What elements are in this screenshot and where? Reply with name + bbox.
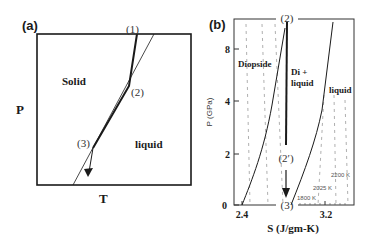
- isotherm-label-1800: 1800 K: [297, 195, 316, 201]
- x-tick-2-4: 2.4: [236, 209, 249, 220]
- panel-b-point-3: (3): [281, 199, 294, 212]
- solidus-curve: [242, 28, 285, 205]
- panel-b-region-diopside: Diopside: [238, 59, 272, 69]
- panel-a: (a) (1) (2) (3) Solid liquid P T: [16, 18, 191, 206]
- panel-b-point-2: (2): [281, 12, 294, 25]
- y-tick-8: 8: [225, 44, 230, 55]
- panel-b-region-liquid: liquid: [329, 85, 352, 95]
- panel-a-point-3: (3): [77, 137, 90, 150]
- panel-b-x-axis-label: S (J/gm-K): [267, 222, 319, 235]
- panel-b: (b): [205, 12, 354, 235]
- x-tick-3-2: 3.2: [320, 209, 333, 220]
- panel-b-region-di-liquid-2: liquid: [291, 78, 314, 88]
- isotherm-label-2200: 2200 K: [331, 172, 350, 178]
- y-tick-4: 4: [225, 96, 230, 107]
- panel-a-label: (a): [22, 18, 38, 33]
- panel-a-y-axis-label: P: [16, 102, 24, 117]
- arrow-down-icon: [84, 168, 93, 177]
- panel-b-y-axis-label: P (GPa): [205, 97, 214, 126]
- figure: (a) (1) (2) (3) Solid liquid P T (b): [0, 0, 370, 240]
- y-tick-0: 0: [222, 200, 227, 211]
- panel-a-region-liquid: liquid: [135, 138, 163, 150]
- isotherm-label-2025: 2025 K: [313, 185, 332, 191]
- panel-b-point-2prime: (2′): [278, 152, 294, 165]
- panel-b-label: (b): [209, 17, 226, 32]
- panel-a-x-axis-label: T: [99, 191, 108, 206]
- panel-a-frame: [37, 34, 191, 185]
- panel-a-thin-line: [73, 34, 154, 185]
- panel-a-region-solid: Solid: [62, 75, 86, 87]
- isentrope-path: [286, 22, 287, 145]
- panel-a-point-1: (1): [126, 23, 139, 36]
- panel-a-point-2: (2): [131, 86, 144, 99]
- arrow-down-icon: [282, 188, 290, 198]
- liquidus-curve: [291, 22, 333, 205]
- panel-b-region-di-liquid-1: Di +: [291, 67, 307, 77]
- y-tick-2: 2: [225, 149, 230, 160]
